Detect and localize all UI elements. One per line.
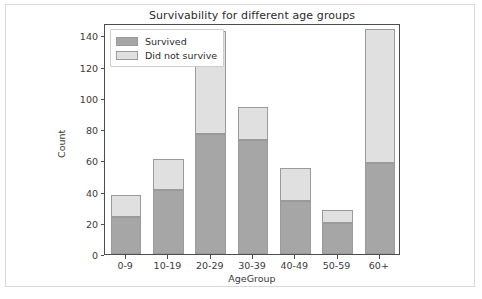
legend-swatch-did-not-survive <box>116 51 138 60</box>
bar-segment-survived[interactable] <box>238 140 268 254</box>
y-tick-label: 60 <box>70 156 98 167</box>
y-tick-label: 0 <box>70 250 98 261</box>
x-tick-mark <box>125 255 126 259</box>
y-tick-label: 40 <box>70 187 98 198</box>
bar-segment-did-not-survive[interactable] <box>238 107 268 140</box>
y-tick-mark <box>101 224 105 225</box>
x-tick-mark <box>167 255 168 259</box>
bar-segment-survived[interactable] <box>153 190 183 254</box>
legend-item: Survived <box>116 34 217 48</box>
x-tick-mark <box>294 255 295 259</box>
bar-group[interactable] <box>365 25 395 254</box>
chart-title: Survivability for different age groups <box>104 9 400 22</box>
y-tick-label: 100 <box>70 93 98 104</box>
bar-group[interactable] <box>238 25 268 254</box>
bar-segment-survived[interactable] <box>280 201 310 254</box>
legend-swatch-survived <box>116 37 138 46</box>
x-tick-label: 0-9 <box>117 260 133 271</box>
bar-segment-did-not-survive[interactable] <box>365 29 395 163</box>
bar-segment-survived[interactable] <box>365 163 395 254</box>
x-tick-mark <box>379 255 380 259</box>
bar-segment-did-not-survive[interactable] <box>111 195 141 217</box>
figure-canvas: Survivability for different age groups C… <box>0 0 482 299</box>
x-axis-label: AgeGroup <box>104 273 400 284</box>
y-tick-mark <box>101 130 105 131</box>
bar-group[interactable] <box>322 25 352 254</box>
x-tick-mark <box>337 255 338 259</box>
bar-segment-did-not-survive[interactable] <box>153 159 183 190</box>
legend-item: Did not survive <box>116 48 217 62</box>
chart-legend: Survived Did not survive <box>110 29 224 67</box>
y-tick-label: 140 <box>70 31 98 42</box>
x-tick-label: 30-39 <box>238 260 266 271</box>
legend-label-survived: Survived <box>145 36 187 47</box>
bar-segment-did-not-survive[interactable] <box>322 210 352 222</box>
y-tick-mark <box>101 255 105 256</box>
x-tick-label: 40-49 <box>280 260 308 271</box>
bar-segment-survived[interactable] <box>195 134 225 254</box>
bar-segment-survived[interactable] <box>322 223 352 254</box>
y-tick-label: 20 <box>70 218 98 229</box>
x-tick-label: 10-19 <box>154 260 182 271</box>
x-tick-label: 60+ <box>369 260 389 271</box>
bar-group[interactable] <box>280 25 310 254</box>
y-tick-label: 120 <box>70 62 98 73</box>
y-tick-mark <box>101 36 105 37</box>
y-tick-label: 80 <box>70 125 98 136</box>
y-tick-mark <box>101 68 105 69</box>
y-axis-label: Count <box>56 129 67 157</box>
bar-segment-did-not-survive[interactable] <box>280 168 310 201</box>
y-tick-mark <box>101 193 105 194</box>
x-tick-mark <box>210 255 211 259</box>
x-tick-mark <box>252 255 253 259</box>
legend-label-did-not-survive: Did not survive <box>145 50 217 61</box>
bar-segment-survived[interactable] <box>111 217 141 254</box>
y-tick-mark <box>101 161 105 162</box>
x-tick-label: 50-59 <box>323 260 351 271</box>
y-tick-mark <box>101 99 105 100</box>
x-tick-label: 20-29 <box>196 260 224 271</box>
